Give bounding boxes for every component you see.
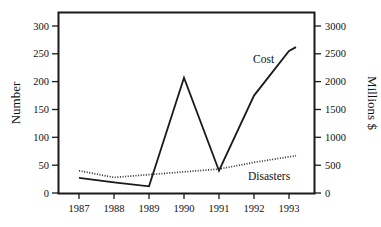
x-tick-label-1989: 1989 xyxy=(139,203,160,214)
x-tick-label-1993: 1993 xyxy=(279,203,300,214)
left-axis-ticks xyxy=(52,26,58,193)
series-annotation-disasters: Disasters xyxy=(248,170,291,182)
chart-svg: 0 50 100 150 200 250 300 Number 0 500 10… xyxy=(0,0,381,227)
x-tick-label-1992: 1992 xyxy=(244,203,265,214)
plot-border xyxy=(59,13,315,194)
left-tick-label-300: 300 xyxy=(33,21,49,32)
x-tick-label-1991: 1991 xyxy=(209,203,230,214)
series-annotation-cost: Cost xyxy=(253,53,275,65)
right-tick-label-3000: 3000 xyxy=(325,21,346,32)
plot-frame xyxy=(59,13,315,194)
x-tick-label-1988: 1988 xyxy=(104,203,125,214)
x-axis-tick-labels: 1987 1988 1989 1990 1991 1992 1993 xyxy=(69,203,300,214)
right-axis-ticks xyxy=(315,26,321,193)
chart-figure: 0 50 100 150 200 250 300 Number 0 500 10… xyxy=(0,0,381,227)
right-axis-tick-labels: 0 500 1000 1500 2000 2500 3000 xyxy=(325,21,346,199)
right-tick-label-1500: 1500 xyxy=(325,104,346,115)
left-axis-title: Number xyxy=(8,81,23,124)
right-tick-label-500: 500 xyxy=(325,160,341,171)
right-tick-label-0: 0 xyxy=(325,188,330,199)
left-tick-label-150: 150 xyxy=(33,104,49,115)
x-tick-label-1987: 1987 xyxy=(69,203,90,214)
x-tick-label-1990: 1990 xyxy=(174,203,195,214)
left-tick-label-50: 50 xyxy=(39,160,50,171)
right-tick-label-2000: 2000 xyxy=(325,76,346,87)
right-axis-title: Millions $ xyxy=(365,76,380,130)
right-tick-label-1000: 1000 xyxy=(325,132,346,143)
left-tick-label-100: 100 xyxy=(33,132,49,143)
left-axis-tick-labels: 0 50 100 150 200 250 300 xyxy=(33,21,49,199)
right-tick-label-2500: 2500 xyxy=(325,48,346,59)
left-tick-label-250: 250 xyxy=(33,48,49,59)
left-tick-label-0: 0 xyxy=(44,188,49,199)
left-tick-label-200: 200 xyxy=(33,76,49,87)
